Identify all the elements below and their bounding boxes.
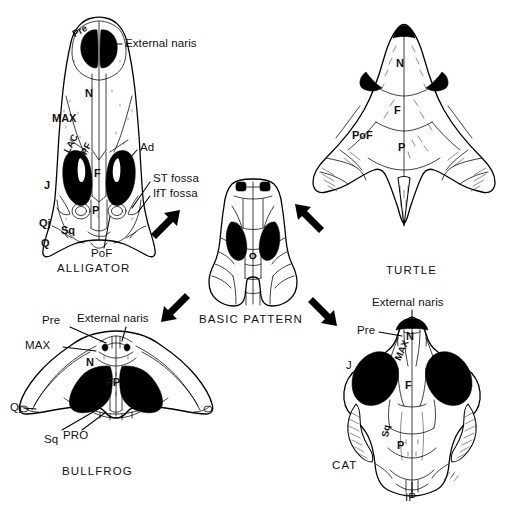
alligator-label-adductor: Ad — [140, 142, 154, 154]
bullfrog-label-external-naris: External naris — [77, 313, 149, 325]
cat-label-interparietal: IP — [405, 492, 416, 504]
cat-label-pre: Pre — [357, 325, 375, 337]
caption-turtle: TURTLE — [386, 264, 437, 276]
alligator-label-jugal: J — [44, 180, 50, 191]
turtle-label-parietal: P — [398, 142, 405, 153]
arrow-to-alligator — [151, 210, 180, 239]
bullfrog-label-squamosal: Sq — [44, 434, 58, 446]
comparative-skull-figure: Pre External naris N MAX LAC PF F J Ad S… — [0, 0, 506, 510]
bullfrog-label-quadratojugal: Qj — [10, 402, 22, 414]
alligator-skull-drawing — [43, 17, 155, 257]
cat-label-external-naris: External naris — [372, 297, 444, 309]
bullfrog-label-maxilla: MAX — [25, 340, 50, 352]
alligator-label-ift-fossa: IfT fossa — [153, 188, 198, 200]
arrow-to-cat — [308, 297, 337, 326]
basic-pattern-skull-drawing — [209, 179, 297, 306]
bullfrog-label-prootic: PRO — [63, 430, 88, 442]
arrow-to-turtle — [295, 204, 324, 233]
alligator-label-external-naris: External naris — [125, 38, 197, 50]
bullfrog-label-nasal: N — [86, 357, 94, 368]
caption-cat: CAT — [332, 459, 357, 471]
alligator-label-parietal: P — [92, 205, 99, 216]
turtle-label-postfrontal: PoF — [352, 130, 373, 141]
bullfrog-label-frontoparietal: FP — [106, 377, 120, 388]
caption-basic-pattern: BASIC PATTERN — [199, 313, 303, 325]
alligator-label-st-fossa: ST fossa — [153, 173, 199, 185]
cat-label-parietal: P — [397, 440, 404, 451]
bullfrog-label-pre: Pre — [42, 315, 60, 327]
cat-skull-drawing — [344, 317, 480, 496]
cat-label-squamosal: Sq — [380, 424, 391, 438]
turtle-label-nasal: N — [396, 58, 404, 69]
alligator-label-maxilla: MAX — [52, 113, 76, 124]
alligator-label-frontal: F — [94, 168, 101, 179]
turtle-label-frontal: F — [394, 105, 401, 116]
caption-bullfrog: BULLFROG — [62, 465, 133, 477]
alligator-label-quadratojugal: Qj — [39, 218, 51, 229]
alligator-label-nasal: N — [85, 88, 93, 99]
caption-alligator: ALLIGATOR — [57, 262, 130, 274]
arrow-to-bullfrog — [161, 293, 190, 322]
alligator-label-postfrontal: PoF — [91, 248, 112, 260]
alligator-label-squamosal: Sq — [61, 225, 75, 236]
cat-label-jugal: J — [346, 360, 352, 372]
turtle-skull-drawing — [313, 25, 495, 227]
alligator-label-quadrate: Q — [41, 238, 50, 249]
cat-label-frontal: F — [405, 380, 412, 391]
basic-pattern-label-pineal-foramen: O — [249, 251, 256, 261]
